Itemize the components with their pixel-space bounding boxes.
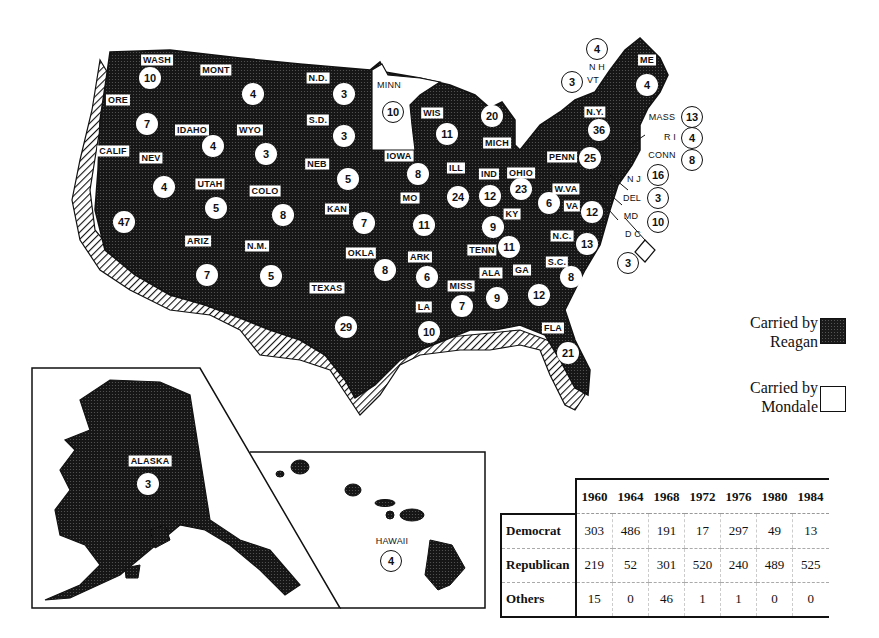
state-label-fla: FLA — [542, 323, 564, 334]
table-cell: 17 — [685, 514, 721, 549]
ev-circle-wash: 10 — [139, 67, 161, 89]
state-label-nc: N.C. — [551, 231, 574, 242]
ev-circle-sc: 8 — [560, 266, 582, 288]
table-row: Democrat 303 486 191 17 297 49 13 — [501, 514, 829, 549]
ev-circle-ala: 9 — [486, 287, 508, 309]
ev-circle-ky: 9 — [482, 216, 504, 238]
state-label-ind: IND — [479, 169, 499, 180]
state-label-sd: S.D. — [307, 115, 329, 126]
legend-mondale-swatch — [820, 386, 846, 412]
legend-reagan-line2: Reagan — [700, 332, 818, 351]
state-label-ill: ILL — [447, 163, 465, 174]
ev-circle-md: 10 — [647, 211, 669, 233]
state-label-wash: WASH — [141, 55, 173, 66]
ev-circle-miss: 7 — [451, 295, 473, 317]
ev-circle-colo: 8 — [272, 204, 294, 226]
table-row: Republican 219 52 301 520 240 489 525 — [501, 548, 829, 582]
state-label-mich: MICH — [483, 138, 511, 149]
table-cell: 489 — [757, 548, 793, 582]
ev-circle-penn: 25 — [579, 147, 601, 169]
table-cell: 0 — [793, 582, 829, 617]
state-label-ohio: OHIO — [507, 168, 535, 179]
ev-circle-ny: 36 — [588, 119, 610, 141]
ev-circle-hawaii: 4 — [380, 550, 402, 572]
table-cell: 1 — [721, 582, 757, 617]
ev-circle-ariz: 7 — [196, 264, 218, 286]
state-label-iowa: IOWA — [385, 151, 414, 162]
table-cell: 303 — [576, 514, 613, 549]
ev-circle-ill: 24 — [447, 186, 469, 208]
alaska-reagan — [45, 380, 300, 600]
state-label-ny: N.Y. — [584, 107, 605, 118]
ev-circle-iowa: 8 — [407, 163, 429, 185]
state-label-ga: GA — [513, 265, 531, 276]
ev-circle-calif: 47 — [113, 211, 135, 233]
electoral-votes-table: 1960 1964 1968 1972 1976 1980 1984 Democ… — [500, 478, 829, 618]
state-label-dc: D C — [623, 229, 643, 240]
legend-reagan-line1: Carried by — [700, 313, 818, 332]
table-cell: 0 — [757, 582, 793, 617]
state-label-del: DEL — [621, 193, 643, 204]
table-cell: 219 — [576, 548, 613, 582]
ev-circle-va: 12 — [581, 201, 603, 223]
table-cell: 49 — [757, 514, 793, 549]
state-label-neb: NEB — [305, 159, 329, 170]
state-label-tenn: TENN — [467, 245, 496, 256]
ev-circle-minn: 10 — [382, 101, 404, 123]
state-label-md: MD — [622, 211, 640, 222]
year-header: 1964 — [613, 479, 649, 514]
state-label-sc: S.C. — [546, 257, 568, 268]
ev-circle-texas: 29 — [335, 316, 357, 338]
state-label-wva: W.VA — [552, 184, 579, 195]
ev-circle-me: 4 — [636, 74, 658, 96]
ev-circle-wyo: 3 — [255, 143, 277, 165]
table-cell: 301 — [649, 548, 685, 582]
ev-circle-vt: 3 — [561, 71, 583, 93]
ev-circle-ga: 12 — [528, 284, 550, 306]
ev-circle-nd: 3 — [333, 83, 355, 105]
ev-circle-utah: 5 — [205, 197, 227, 219]
year-header: 1972 — [685, 479, 721, 514]
state-label-ariz: ARIZ — [185, 236, 211, 247]
legend-mondale: Carried by Mondale — [700, 378, 818, 416]
state-label-kan: KAN — [325, 204, 349, 215]
state-label-mass: MASS — [647, 112, 677, 123]
hawaii-island-oahu — [345, 484, 361, 496]
state-label-hawaii: HAWAII — [374, 536, 411, 547]
state-label-ore: ORE — [106, 95, 130, 106]
state-label-miss: MISS — [448, 281, 475, 292]
table-cell: 46 — [649, 582, 685, 617]
ev-circle-mont: 4 — [242, 83, 264, 105]
state-label-nev: NEV — [139, 153, 162, 164]
state-label-nj: N J — [625, 174, 643, 185]
hawaii-island-big-island — [425, 540, 465, 590]
ev-circle-kan: 7 — [353, 212, 375, 234]
ev-circle-nj: 16 — [647, 164, 669, 186]
ev-circle-la: 10 — [418, 321, 440, 343]
state-label-utah: UTAH — [195, 179, 224, 190]
legend-mondale-line1: Carried by — [700, 378, 818, 397]
ev-circle-fla: 21 — [557, 342, 579, 364]
legend-reagan-swatch — [820, 318, 846, 344]
ev-circle-ri: 4 — [681, 127, 703, 149]
state-label-vt: VT — [585, 75, 601, 86]
table-cell: 240 — [721, 548, 757, 582]
table-cell: 15 — [576, 582, 613, 617]
ev-circle-wva: 6 — [538, 192, 560, 214]
state-label-okla: OKLA — [346, 248, 376, 259]
ev-circle-del: 3 — [647, 187, 669, 209]
ev-circle-idaho: 4 — [202, 135, 224, 157]
ev-circle-okla: 8 — [374, 259, 396, 281]
state-label-idaho: IDAHO — [175, 125, 209, 136]
ev-circle-wis: 11 — [436, 123, 458, 145]
state-label-colo: COLO — [250, 186, 281, 197]
state-label-conn: CONN — [646, 150, 677, 161]
table-cell: 525 — [793, 548, 829, 582]
state-label-nd: N.D. — [307, 73, 330, 84]
state-label-penn: PENN — [547, 152, 577, 163]
ev-circle-ind: 12 — [479, 185, 501, 207]
ev-circle-nm: 5 — [260, 265, 282, 287]
ev-circle-tenn: 11 — [498, 236, 520, 258]
state-label-calif: CALIF — [97, 146, 129, 157]
year-header: 1984 — [793, 479, 829, 514]
